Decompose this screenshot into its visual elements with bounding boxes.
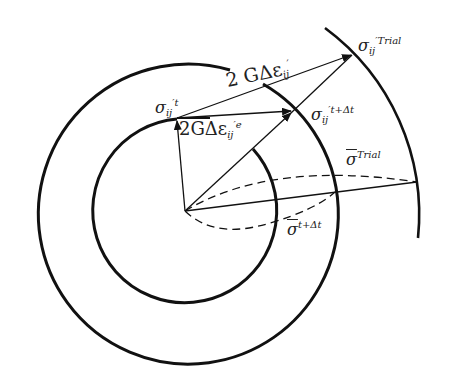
- label-sigma-trial: σij′Trial: [358, 38, 401, 54]
- label-sigma-t-dt: σij′t+Δt: [311, 107, 354, 123]
- label-sigma-bar-trial: σTrial: [346, 152, 381, 168]
- label-sigma-t: σij′t: [155, 100, 179, 116]
- diagram-canvas: [0, 0, 451, 371]
- label-sigma-bar-t-dt: σt+Δt: [287, 222, 322, 238]
- label-elastic-increment: 2GΔεij′e: [179, 120, 242, 138]
- radius-line-trial: [185, 182, 417, 211]
- dashed-arc-trial: [185, 175, 417, 211]
